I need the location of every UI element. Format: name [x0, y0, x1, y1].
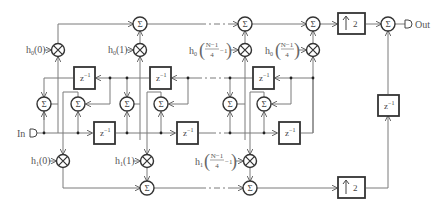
multiplier-icon: [57, 155, 70, 168]
svg-text:4: 4: [285, 51, 289, 59]
sum-node-bottom-2: Σ: [243, 181, 257, 195]
delay-block-lower-2: z−1: [177, 122, 198, 144]
sum-node-bottom-1: Σ: [140, 181, 154, 195]
sum-node-output: Σ: [381, 17, 395, 31]
svg-text:Σ: Σ: [242, 19, 247, 29]
sum-node-top-1: Σ: [133, 17, 147, 31]
svg-text:Σ: Σ: [41, 99, 46, 109]
coef-h0-0: h0(0): [26, 44, 46, 56]
svg-text:Σ: Σ: [75, 99, 80, 109]
coef-h0-1: h0(1): [108, 44, 128, 56]
polyphase-filter-diagram: Σ Σ Σ Σ Σ Σ Σ Σ Σ Σ Σ Σ: [0, 0, 447, 210]
svg-text:Σ: Σ: [158, 99, 163, 109]
svg-text:Σ: Σ: [385, 19, 390, 29]
sum-node-top-3: Σ: [306, 17, 320, 31]
multiplier-icon: [141, 155, 154, 168]
multiplier-icon: [244, 155, 257, 168]
svg-text:Σ: Σ: [247, 183, 252, 193]
coef-h1-0: h1(0): [31, 155, 51, 167]
sum-node-mid-5: Σ: [223, 97, 237, 111]
svg-text:2: 2: [353, 19, 358, 29]
svg-text:Σ: Σ: [124, 99, 129, 109]
sum-node-mid-2: Σ: [71, 97, 85, 111]
port-icon: [405, 20, 412, 28]
port-icon: [30, 129, 37, 137]
upsampler-top: 2: [338, 13, 365, 34]
svg-text:h0: h0: [189, 45, 197, 57]
multiplier-icon: [134, 44, 147, 57]
svg-text:): ): [231, 151, 237, 172]
delay-block-lower-1: z−1: [94, 122, 115, 144]
multiplier-nodes: [52, 44, 320, 168]
delay-block-upper-1: z−1: [74, 67, 95, 89]
delay-block-upper-2: z−1: [150, 67, 171, 89]
svg-text:Σ: Σ: [137, 19, 142, 29]
sum-node-mid-1: Σ: [37, 97, 51, 111]
svg-text:Out: Out: [415, 19, 430, 30]
coef-h1-n-minus-1: h1 ( N−1 4 −1 ): [195, 151, 237, 172]
delay-block-upper-3: z−1: [253, 67, 274, 89]
svg-text:Σ: Σ: [144, 183, 149, 193]
svg-text:Σ: Σ: [227, 99, 232, 109]
svg-text:In: In: [17, 128, 25, 139]
delay-block-lower-3: z−1: [279, 122, 300, 144]
svg-text:Σ: Σ: [261, 99, 266, 109]
svg-text:2: 2: [353, 183, 358, 193]
svg-text:): ): [294, 40, 300, 61]
svg-text:N−1: N−1: [206, 41, 219, 49]
delay-block-output: z−1: [378, 95, 399, 116]
svg-text:4: 4: [210, 51, 214, 59]
coef-h0-n: h0 ( N−1 4 ): [265, 40, 300, 61]
coef-h0-n-minus-1: h0 ( N−1 4 −1 ): [189, 40, 232, 61]
svg-text:): ): [226, 40, 232, 61]
svg-text:N−1: N−1: [211, 152, 224, 160]
svg-text:h0: h0: [265, 45, 273, 57]
coef-h1-1: h1(1): [115, 155, 135, 167]
sum-node-mid-6: Σ: [257, 97, 271, 111]
svg-text:h1: h1: [195, 156, 203, 168]
sum-node-mid-3: Σ: [120, 97, 134, 111]
svg-text:N−1: N−1: [281, 41, 294, 49]
upsampler-bottom: 2: [338, 177, 365, 198]
multiplier-icon: [239, 44, 252, 57]
svg-text:4: 4: [215, 162, 219, 170]
output-port: Out: [405, 19, 430, 30]
svg-text:(: (: [199, 40, 205, 61]
multiplier-icon: [307, 44, 320, 57]
multiplier-icon: [52, 44, 65, 57]
upsamplers: 2 2: [338, 13, 365, 198]
sum-node-top-2: Σ: [238, 17, 252, 31]
sum-node-mid-4: Σ: [154, 97, 168, 111]
input-port: In: [17, 128, 37, 139]
svg-text:(: (: [204, 151, 210, 172]
svg-text:Σ: Σ: [310, 19, 315, 29]
